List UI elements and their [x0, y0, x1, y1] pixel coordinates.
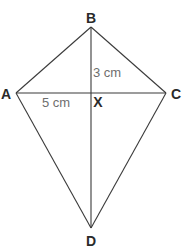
edge-cd — [91, 93, 166, 228]
intersection-label-x: X — [93, 94, 103, 110]
vertex-label-b: B — [86, 10, 96, 26]
vertex-label-c: C — [171, 86, 181, 102]
edge-ab — [16, 27, 91, 93]
vertex-label-a: A — [1, 86, 11, 102]
measurement-ax: 5 cm — [42, 95, 70, 110]
vertex-label-d: D — [86, 233, 96, 249]
edge-ad — [16, 93, 91, 228]
measurement-bx: 3 cm — [93, 65, 121, 80]
kite-diagram: B A C D X 3 cm 5 cm — [0, 0, 186, 251]
edge-bc — [91, 27, 166, 93]
